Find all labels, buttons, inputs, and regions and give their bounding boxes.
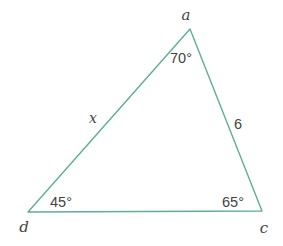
angle-label-d: 45° [50, 195, 72, 210]
side-label-ac: 6 [234, 117, 242, 132]
triangle-shape [28, 29, 262, 212]
vertex-label-c: c [260, 221, 268, 236]
triangle-figure: a c d 70° 45° 65° x 6 [0, 0, 283, 246]
angle-label-a: 70° [170, 51, 192, 66]
angle-label-c: 65° [222, 195, 244, 210]
vertex-label-a: a [182, 8, 191, 23]
side-label-ad: x [89, 111, 97, 125]
vertex-label-d: d [19, 220, 29, 235]
